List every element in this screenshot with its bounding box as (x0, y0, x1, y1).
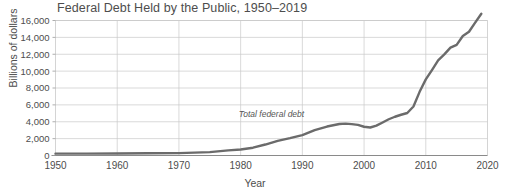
plot-area: 02,0004,0006,0008,00010,00012,00014,0001… (0, 0, 510, 193)
x-tick-label: 2020 (476, 160, 499, 171)
x-tick-label: 1950 (44, 160, 67, 171)
x-tick-label: 1970 (168, 160, 191, 171)
data-series-group (56, 14, 482, 154)
x-axis-ticks: 19501960197019801990200020102020 (44, 160, 499, 171)
y-tick-label: 4,000 (26, 116, 50, 127)
data-series-line (56, 14, 482, 154)
x-tick-label: 2000 (353, 160, 376, 171)
y-tick-label: 16,000 (20, 15, 49, 26)
y-tick-label: 14,000 (20, 32, 49, 43)
chart-container: Federal Debt Held by the Public, 1950–20… (0, 0, 510, 193)
y-tick-label: 2,000 (26, 133, 50, 144)
y-tick-label: 6,000 (26, 99, 50, 110)
y-axis-ticks: 02,0004,0006,0008,00010,00012,00014,0001… (20, 15, 55, 161)
horizontal-gridlines (56, 21, 488, 139)
y-tick-label: 10,000 (20, 66, 49, 77)
x-tick-label: 2010 (415, 160, 438, 171)
x-tick-label: 1980 (230, 160, 253, 171)
series-annotation-label: Total federal debt (239, 109, 305, 119)
series-annotations: Total federal debt (239, 109, 305, 119)
y-tick-label: 8,000 (26, 82, 50, 93)
x-tick-label: 1960 (106, 160, 129, 171)
y-tick-label: 12,000 (20, 49, 49, 60)
x-tick-label: 1990 (291, 160, 314, 171)
